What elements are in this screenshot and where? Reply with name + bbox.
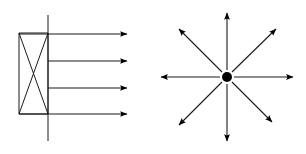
radial-ray-downright <box>232 82 272 122</box>
source-dot <box>222 72 232 82</box>
radial-ray-upleft <box>179 29 222 72</box>
parallel-beam-source-panel <box>19 15 127 141</box>
point-source-panel <box>161 13 293 141</box>
radial-ray-downleft <box>179 82 222 125</box>
radial-ray-upright <box>232 29 276 72</box>
figure-canvas <box>0 0 306 154</box>
wave-source-diagram <box>0 0 306 154</box>
